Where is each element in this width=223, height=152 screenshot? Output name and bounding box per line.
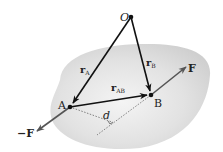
label-a: A bbox=[57, 99, 67, 112]
label-force-f: F bbox=[188, 62, 196, 75]
point-o bbox=[129, 15, 134, 20]
point-b bbox=[149, 93, 154, 98]
point-a bbox=[68, 105, 73, 110]
couple-diagram: O A B rA rB rAB F −F d bbox=[0, 0, 223, 152]
rigid-body bbox=[50, 44, 210, 149]
label-distance-d: d bbox=[103, 109, 110, 122]
label-o: O bbox=[120, 11, 129, 24]
label-force-neg-f: −F bbox=[17, 127, 34, 140]
label-b: B bbox=[154, 97, 162, 110]
